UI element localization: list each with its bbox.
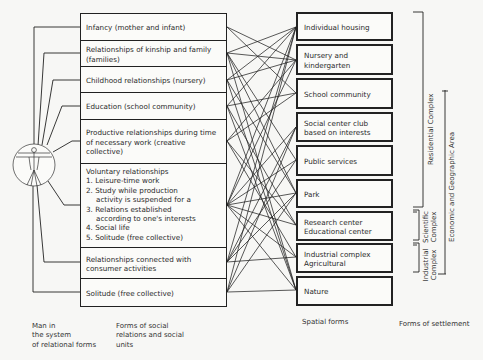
voluntary-item: 2. Study while production	[86, 186, 196, 195]
voluntary-item: 4. Social life	[86, 223, 196, 232]
relation-label: Productive relationships during time of …	[86, 128, 222, 156]
space-label: Nursery and kindergarten	[304, 51, 387, 70]
caption-social-relations: Forms of social relations and social uni…	[116, 322, 184, 350]
voluntary-item: according to one's interests	[86, 214, 196, 223]
voluntary-item: 1. Leisure-time work	[86, 176, 196, 185]
relation-box-solitude[interactable]: Solitude (free collective)	[80, 278, 227, 307]
relation-box-childhood[interactable]: Childhood relationships (nursery)	[80, 66, 227, 93]
relation-label: Relationships connected with consumer ac…	[86, 255, 222, 274]
label-scientific-complex: Scientific Complex	[422, 210, 438, 244]
space-box-individual-housing[interactable]: Individual housing	[296, 12, 393, 41]
caption-spatial-forms: Spatial forms	[302, 318, 348, 327]
space-label: Nature	[304, 287, 328, 296]
relation-label: Relationships of kinship and family (fam…	[86, 45, 222, 64]
vitruvian-man-icon	[13, 144, 55, 186]
relation-to-space-connectors	[227, 27, 296, 292]
space-box-nature[interactable]: Nature	[296, 276, 393, 306]
relation-box-infancy[interactable]: Infancy (mother and infant)	[80, 13, 227, 41]
relation-box-kinship-family[interactable]: Relationships of kinship and family (fam…	[80, 40, 227, 67]
space-box-industrial-complex[interactable]: Industrial complex Agricultural	[296, 243, 393, 273]
space-label: School community	[304, 90, 371, 99]
label-residential-complex: Residential Complex	[427, 94, 436, 166]
space-label: Individual housing	[304, 23, 370, 32]
space-box-park[interactable]: Park	[296, 179, 393, 208]
space-label: Research center Educational center	[304, 218, 387, 237]
space-box-nursery[interactable]: Nursery and kindergarten	[296, 44, 393, 75]
label-industrial-complex: Industrial Complex	[422, 243, 438, 287]
voluntary-item: activity is suspended for a	[86, 195, 196, 204]
relation-label: Infancy (mother and infant)	[86, 23, 185, 32]
space-box-research-center[interactable]: Research center Educational center	[296, 211, 393, 241]
voluntary-title: Voluntary relationships	[86, 167, 196, 176]
space-box-public-services[interactable]: Public services	[296, 145, 393, 176]
caption-man-in-system: Man in the system of relational forms	[32, 322, 96, 350]
relation-label: Solitude (free collective)	[86, 289, 174, 298]
voluntary-item: 5. Solitude (free collective)	[86, 233, 196, 242]
relation-box-voluntary[interactable]: Voluntary relationships 1. Leisure-time …	[80, 163, 227, 248]
relation-box-education[interactable]: Education (school community)	[80, 92, 227, 120]
voluntary-item: 3. Relations established	[86, 205, 196, 214]
relation-box-consumer[interactable]: Relationships connected with consumer ac…	[80, 247, 227, 279]
caption-forms-of-settlement: Forms of settlement	[399, 320, 469, 329]
space-label: Park	[304, 190, 320, 199]
label-economic-geographic-area: Economic and Geographic Area	[448, 132, 457, 242]
space-label: Public services	[304, 157, 357, 166]
relation-box-productive[interactable]: Productive relationships during time of …	[80, 119, 227, 164]
relations-diagram	[0, 0, 483, 360]
relation-label: Childhood relationships (nursery)	[86, 76, 206, 85]
space-box-social-center[interactable]: Social center club based on interests	[296, 112, 393, 142]
relation-label: Education (school community)	[86, 102, 196, 111]
voluntary-relations-list: Voluntary relationships 1. Leisure-time …	[86, 166, 196, 242]
space-label: Social center club based on interests	[304, 119, 387, 138]
space-box-school[interactable]: School community	[296, 78, 393, 109]
space-label: Industrial complex Agricultural	[304, 250, 387, 269]
